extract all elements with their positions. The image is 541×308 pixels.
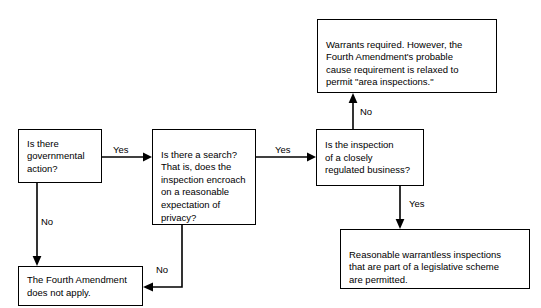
edge-label-gov-to-search: Yes bbox=[113, 144, 129, 155]
node-governmental-action-label: Is there governmental action? bbox=[27, 138, 85, 176]
edge-label-search-to-business: Yes bbox=[275, 144, 291, 155]
edge-label-business-to-permitted: Yes bbox=[409, 198, 425, 209]
node-warrants-required-label: Warrants required. However, the Fourth A… bbox=[326, 39, 462, 88]
edge-label-gov-to-does-not-apply: No bbox=[41, 216, 53, 227]
node-warrants-required[interactable]: Warrants required. However, the Fourth A… bbox=[317, 19, 497, 93]
flowchart-canvas: Is there governmental action? Is there a… bbox=[0, 0, 541, 308]
node-does-not-apply-label: The Fourth Amendment does not apply. bbox=[27, 274, 127, 299]
node-does-not-apply[interactable]: The Fourth Amendment does not apply. bbox=[18, 266, 143, 306]
edge-label-business-to-warrants: No bbox=[360, 106, 372, 117]
connector-business-to-warrants bbox=[349, 93, 358, 129]
connector-business-to-permitted bbox=[396, 186, 405, 229]
edge-label-search-to-does-not-apply: No bbox=[156, 264, 168, 275]
node-governmental-action[interactable]: Is there governmental action? bbox=[18, 129, 102, 183]
connector-search-to-does-not-apply bbox=[143, 225, 182, 291]
node-is-there-a-search-label: Is there a search? That is, does the ins… bbox=[161, 149, 246, 223]
node-closely-regulated-business[interactable]: Is the inspection of a closely regulated… bbox=[316, 129, 424, 186]
node-is-there-a-search[interactable]: Is there a search? That is, does the ins… bbox=[152, 129, 256, 225]
node-closely-regulated-business-label: Is the inspection of a closely regulated… bbox=[325, 139, 410, 177]
node-warrantless-permitted[interactable]: Reasonable warrantless inspections that … bbox=[340, 229, 530, 289]
node-warrantless-permitted-label: Reasonable warrantless inspections that … bbox=[349, 249, 501, 285]
